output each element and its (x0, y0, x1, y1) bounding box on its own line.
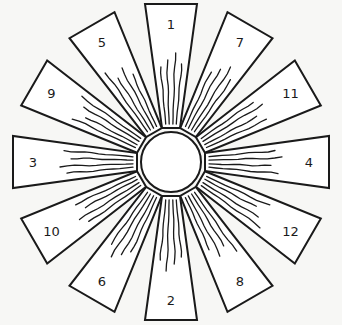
blade-number-label: 3 (29, 155, 37, 170)
blade-number-label: 11 (282, 86, 299, 101)
blade-number-label: 12 (282, 224, 299, 239)
blade-number-label: 4 (305, 155, 313, 170)
blade-number-label: 8 (236, 274, 244, 289)
blade-number-label: 10 (43, 224, 60, 239)
center-hub-circle (141, 132, 201, 192)
radial-blade-diagram: 171141282610395 (0, 0, 342, 325)
blade-number-label: 7 (236, 35, 244, 50)
blade-number-label: 2 (167, 293, 175, 308)
blade-number-label: 6 (98, 274, 106, 289)
blade-number-label: 1 (167, 17, 175, 32)
blade-number-label: 9 (47, 86, 55, 101)
blade-number-label: 5 (98, 35, 106, 50)
